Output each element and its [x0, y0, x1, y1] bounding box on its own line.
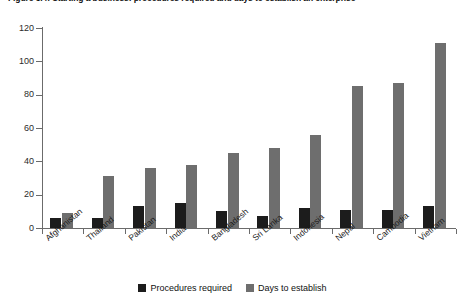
y-axis-tick-label: 60: [4, 124, 34, 133]
x-axis-tick: [42, 229, 43, 234]
legend-label: Procedures required: [150, 283, 232, 293]
bar-group: [373, 28, 414, 228]
plot-area: [42, 28, 456, 228]
bar-days-to-establish: [352, 86, 363, 228]
chart-title: Figure 3.4: Starting a business: procedu…: [8, 0, 458, 3]
y-axis-tick-label-wrap: 40: [0, 157, 34, 166]
y-axis-tick-label: 80: [4, 90, 34, 99]
chart-legend: Procedures requiredDays to establish: [0, 283, 465, 293]
x-axis-tick: [249, 229, 250, 234]
bar-group: [332, 28, 373, 228]
legend-item: Procedures required: [138, 283, 232, 293]
x-axis-tick: [208, 229, 209, 234]
x-axis-tick: [125, 229, 126, 234]
bar-group: [83, 28, 124, 228]
y-axis-tick-label-wrap: 80: [0, 90, 34, 99]
bar-group: [208, 28, 249, 228]
legend-item: Days to establish: [246, 283, 327, 293]
x-axis-tick: [373, 229, 374, 234]
y-axis-tick-label-wrap: 20: [0, 190, 34, 199]
bar-group: [290, 28, 331, 228]
y-axis-tick-label: 0: [4, 224, 34, 233]
bar-days-to-establish: [435, 43, 446, 228]
y-axis-tick-label: 40: [4, 157, 34, 166]
chart-figure: Figure 3.4: Starting a business: procedu…: [0, 0, 465, 302]
y-axis-tick-label: 100: [4, 57, 34, 66]
bar-days-to-establish: [186, 165, 197, 228]
y-axis-tick-label-wrap: 120: [0, 24, 34, 33]
y-axis-tick-label-wrap: 100: [0, 57, 34, 66]
bar-group: [42, 28, 83, 228]
x-axis-tick: [332, 229, 333, 234]
y-axis-tick-label-wrap: 60: [0, 124, 34, 133]
x-axis-tick: [290, 229, 291, 234]
y-axis-tick-label: 20: [4, 190, 34, 199]
legend-swatch-icon: [246, 284, 254, 292]
y-axis-tick-label: 120: [4, 24, 34, 33]
bar-days-to-establish: [393, 83, 404, 228]
x-axis-tick: [415, 229, 416, 234]
x-axis-tick: [166, 229, 167, 234]
legend-label: Days to establish: [258, 283, 327, 293]
bar-group: [125, 28, 166, 228]
legend-swatch-icon: [138, 284, 146, 292]
bar-group: [415, 28, 456, 228]
x-axis-tick: [83, 229, 84, 234]
bar-group: [166, 28, 207, 228]
x-axis-tick: [456, 229, 457, 234]
bar-group: [249, 28, 290, 228]
y-axis-tick-label-wrap: 0: [0, 224, 34, 233]
